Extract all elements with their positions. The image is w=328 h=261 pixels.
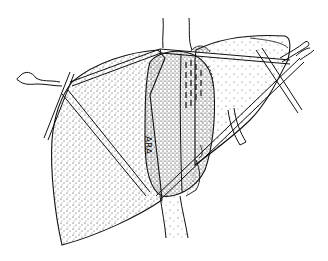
vena-cava-top — [163, 18, 210, 52]
tube-end-left — [17, 72, 62, 86]
illustration-canvas: ARA — [0, 0, 328, 261]
liver-illustration — [0, 0, 328, 261]
central-vessel — [145, 51, 215, 196]
vessel-label: ARA — [143, 136, 153, 154]
